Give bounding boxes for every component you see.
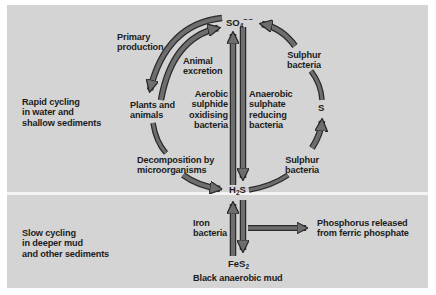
h2s-to-sulphur-bacteria-arc	[249, 175, 288, 190]
sulphate-node: SO4−−	[226, 15, 254, 31]
black-anaerobic-mud-label: Black anaerobic mud	[193, 273, 283, 283]
decomposition-arrow	[183, 175, 220, 189]
phosphorus-node: Phosphorus released from ferric phosphat…	[317, 218, 409, 239]
sulphide-to-sulphur-arrow	[312, 121, 322, 148]
plants-to-decomposition-arc	[153, 123, 166, 153]
decomposition-label: Decomposition by microorganisms	[137, 155, 214, 176]
pyrite-node: FeS2	[228, 259, 249, 272]
iron-bacteria-label: Iron bacteria	[193, 218, 227, 239]
aerobic-oxidising-label: Aerobic sulphide oxidising bacteria	[178, 89, 228, 131]
anaerobic-reducing-label: Anaerobic sulphate reducing bacteria	[249, 89, 293, 131]
lower-zone-label: Slow cycling in deeper mud and other sed…	[22, 228, 109, 259]
hydrogen-sulphide-node: H2S	[229, 185, 246, 198]
sulphur-bacteria-bottom-label: Sulphur bacteria	[282, 155, 322, 176]
sulphur-bacteria-to-s-arc	[311, 71, 322, 100]
sulphur-to-sulphate-arrow	[262, 24, 295, 46]
plants-animals-node: Plants and animals	[130, 100, 175, 121]
sulphur-bacteria-top-label: Sulphur bacteria	[284, 50, 324, 71]
upper-zone-label: Rapid cycling in water and shallow sedim…	[22, 97, 101, 128]
sulphur-node: S	[318, 103, 324, 113]
primary-production-label: Primary production	[117, 32, 163, 53]
animal-excretion-label: Animal excretion	[183, 56, 223, 77]
